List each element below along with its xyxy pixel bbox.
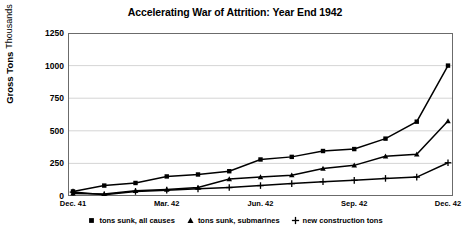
series-marker-2 [382, 175, 389, 182]
series-marker-0 [227, 169, 231, 173]
series-marker-0 [446, 63, 450, 67]
legend-item[interactable]: new construction tons [291, 216, 383, 225]
series-marker-0 [102, 183, 106, 187]
x-tick-label: Mar. 42 [154, 200, 179, 208]
series-marker-0 [196, 172, 200, 176]
x-tick-label: Dec. 42 [435, 200, 461, 208]
x-tick-label: Sep. 42 [341, 200, 367, 208]
triangle-marker-icon [186, 216, 195, 225]
series-line-0 [73, 66, 448, 192]
y-tick-label: 0 [24, 192, 64, 201]
series-marker-2 [163, 187, 170, 194]
plot-border [69, 34, 453, 196]
chart-figure: Accelerating War of Attrition: Year End … [0, 0, 470, 237]
series-marker-2 [257, 182, 264, 189]
series-marker-2 [70, 189, 77, 196]
y-axis-ticks: 025050075010001250 [20, 33, 64, 196]
y-tick-label: 500 [24, 127, 64, 136]
y-axis-title-sub: Thousands [4, 4, 14, 49]
y-tick-label: 750 [24, 94, 64, 103]
y-axis-title-main: Gross Tons [4, 52, 15, 104]
series-marker-0 [352, 147, 356, 151]
series-marker-0 [258, 157, 262, 161]
series-marker-2 [226, 184, 233, 191]
y-tick-label: 1000 [24, 62, 64, 71]
x-axis-ticks: Dec. 41Mar. 42Jun. 42Sep. 42Dec. 42 [68, 200, 453, 212]
series-marker-0 [133, 181, 137, 185]
series-marker-0 [415, 119, 419, 123]
plot-svg [68, 33, 453, 196]
series-marker-0 [383, 136, 387, 140]
plot-area [68, 33, 453, 196]
series-marker-2 [320, 178, 327, 185]
series-marker-0 [290, 155, 294, 159]
chart-legend: tons sunk, all causestons sunk, submarin… [0, 216, 470, 225]
series-marker-2 [351, 177, 358, 184]
x-tick-label: Dec. 41 [60, 200, 86, 208]
series-marker-2 [413, 174, 420, 181]
legend-item[interactable]: tons sunk, all causes [87, 216, 174, 225]
legend-label: new construction tons [303, 216, 383, 225]
series-marker-2 [132, 188, 139, 195]
chart-title: Accelerating War of Attrition: Year End … [0, 6, 470, 18]
series-marker-2 [288, 180, 295, 187]
y-tick-label: 250 [24, 159, 64, 168]
series-marker-0 [321, 149, 325, 153]
series-marker-0 [165, 174, 169, 178]
series-marker-2 [445, 159, 452, 166]
y-tick-label: 1250 [24, 29, 64, 38]
legend-label: tons sunk, submarines [198, 216, 280, 225]
legend-label: tons sunk, all causes [99, 216, 174, 225]
square-marker-icon [87, 216, 96, 225]
x-tick-label: Jun. 42 [248, 200, 274, 208]
plus-marker-icon [291, 216, 300, 225]
legend-item[interactable]: tons sunk, submarines [186, 216, 280, 225]
series-marker-1 [445, 118, 451, 123]
